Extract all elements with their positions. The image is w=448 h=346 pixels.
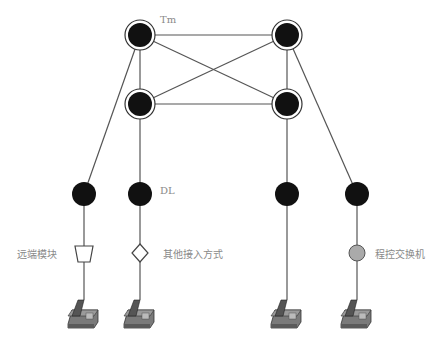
remote-module-trapezoid-icon — [75, 246, 93, 262]
network-diagram — [0, 0, 448, 346]
tm-node-mid-right — [272, 89, 302, 119]
tm-node-mid-left — [125, 89, 155, 119]
tm-node-top-right — [272, 20, 302, 50]
other-access-label: 其他接入方式 — [163, 246, 223, 261]
dl-label: DL — [160, 185, 175, 196]
telephone-icon-3 — [271, 300, 301, 328]
dl-node-1 — [72, 182, 96, 206]
other-access-diamond-icon — [132, 244, 148, 262]
telephone-icon-1 — [68, 300, 98, 328]
dl-node-4 — [345, 182, 369, 206]
telephone-icon-2 — [124, 300, 154, 328]
tm-node-top-left — [125, 20, 155, 50]
dl-node-3 — [275, 182, 299, 206]
remote-module-label: 远端模块 — [17, 246, 57, 261]
dl-node-2 — [128, 182, 152, 206]
pbx-label: 程控交换机 — [375, 246, 425, 261]
telephone-icon-4 — [341, 300, 371, 328]
figure-caption — [146, 334, 296, 340]
pbx-circle-icon — [349, 245, 365, 261]
tm-label: Tm — [160, 14, 176, 25]
